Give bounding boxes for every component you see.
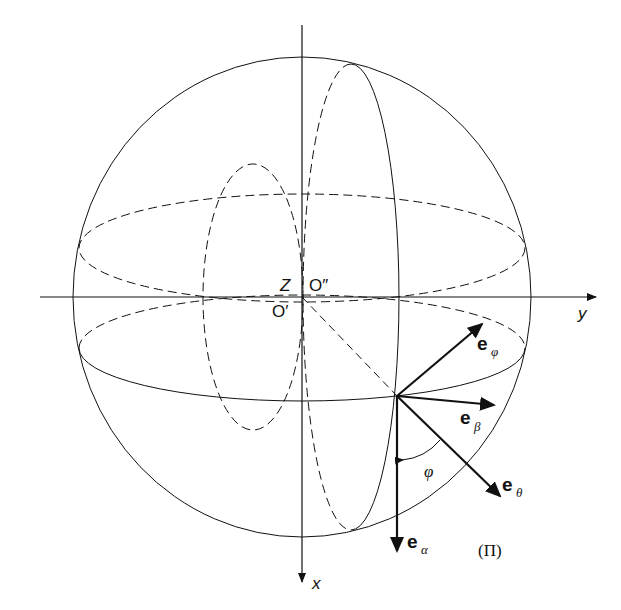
svg-text:e: e [477,333,488,354]
svg-text:e: e [502,474,513,495]
label-e-beta: e β [460,407,481,434]
svg-text:β: β [473,419,481,434]
svg-text:α: α [421,542,429,557]
svg-text:e: e [460,407,471,428]
svg-text:e: e [407,531,418,552]
x-axis-label: x [311,574,321,593]
angle-arc [402,440,440,460]
o-prime-label: O′ [272,302,288,321]
label-e-phi: e φ [477,333,498,359]
o-double-prime-label: O″ [309,276,328,295]
vector-e-beta-arrow [397,396,494,405]
y-axis-label: y [577,304,588,323]
label-e-theta: e θ [502,474,523,500]
angle-phi-label: φ [424,462,433,481]
vector-e-phi-arrow [397,324,482,396]
sphere-diagram: y x Z O″ O′ e φ e β e θ e α φ (Π) [0,0,621,610]
radius-dashed-line [302,297,397,396]
svg-text:φ: φ [491,344,498,359]
svg-text:θ: θ [516,485,523,500]
z-label: Z [279,276,291,295]
label-e-alpha: e α [407,531,429,557]
plane-label: (Π) [478,541,502,560]
